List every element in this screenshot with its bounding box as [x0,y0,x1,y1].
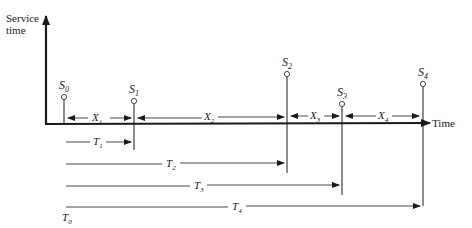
interval-x3: X3 [291,109,339,124]
y-axis: Service time [6,12,46,124]
interval-label-x3: X3 [309,109,321,124]
x-axis: Time [45,117,455,129]
service-label-s0: S0 [59,78,69,94]
queue-timeline-diagram: Service time Time S0 S1 S2 S3 S4 X1 [0,0,472,228]
service-point-icon [131,98,136,103]
service-spike-s4: S4 [418,65,428,206]
x-axis-label: Time [432,117,455,129]
service-point-icon [284,71,289,76]
service-label-s2: S2 [282,55,292,71]
service-spike-s1: S1 [129,82,139,150]
service-spike-s2: S2 [282,55,292,173]
cumulative-t3: T3 [66,179,339,194]
cumulative-label-t1: T1 [93,135,103,150]
service-point-icon [420,81,425,86]
service-point-icon [61,94,66,99]
interval-label-x4: X4 [377,109,389,124]
cumulative-t1: T1 [66,135,131,150]
cumulative-label-t4: T4 [232,200,242,215]
service-spike-s0: S0 [59,78,69,124]
service-label-s4: S4 [418,65,428,81]
cumulative-t2: T2 [66,157,284,172]
cumulative-label-t3: T3 [194,179,204,194]
service-label-s1: S1 [129,82,139,98]
interval-x4: X4 [346,109,419,124]
service-point-icon [339,101,344,106]
y-axis-label-line1: Service [6,12,39,24]
service-label-s3: S3 [337,85,347,101]
service-spike-s3: S3 [337,85,347,195]
cumulative-label-t2: T2 [166,157,176,172]
cumulative-t4: T4 [66,200,420,215]
y-axis-label-line2: time [6,24,26,36]
origin-label-t0: T0 [62,211,72,226]
